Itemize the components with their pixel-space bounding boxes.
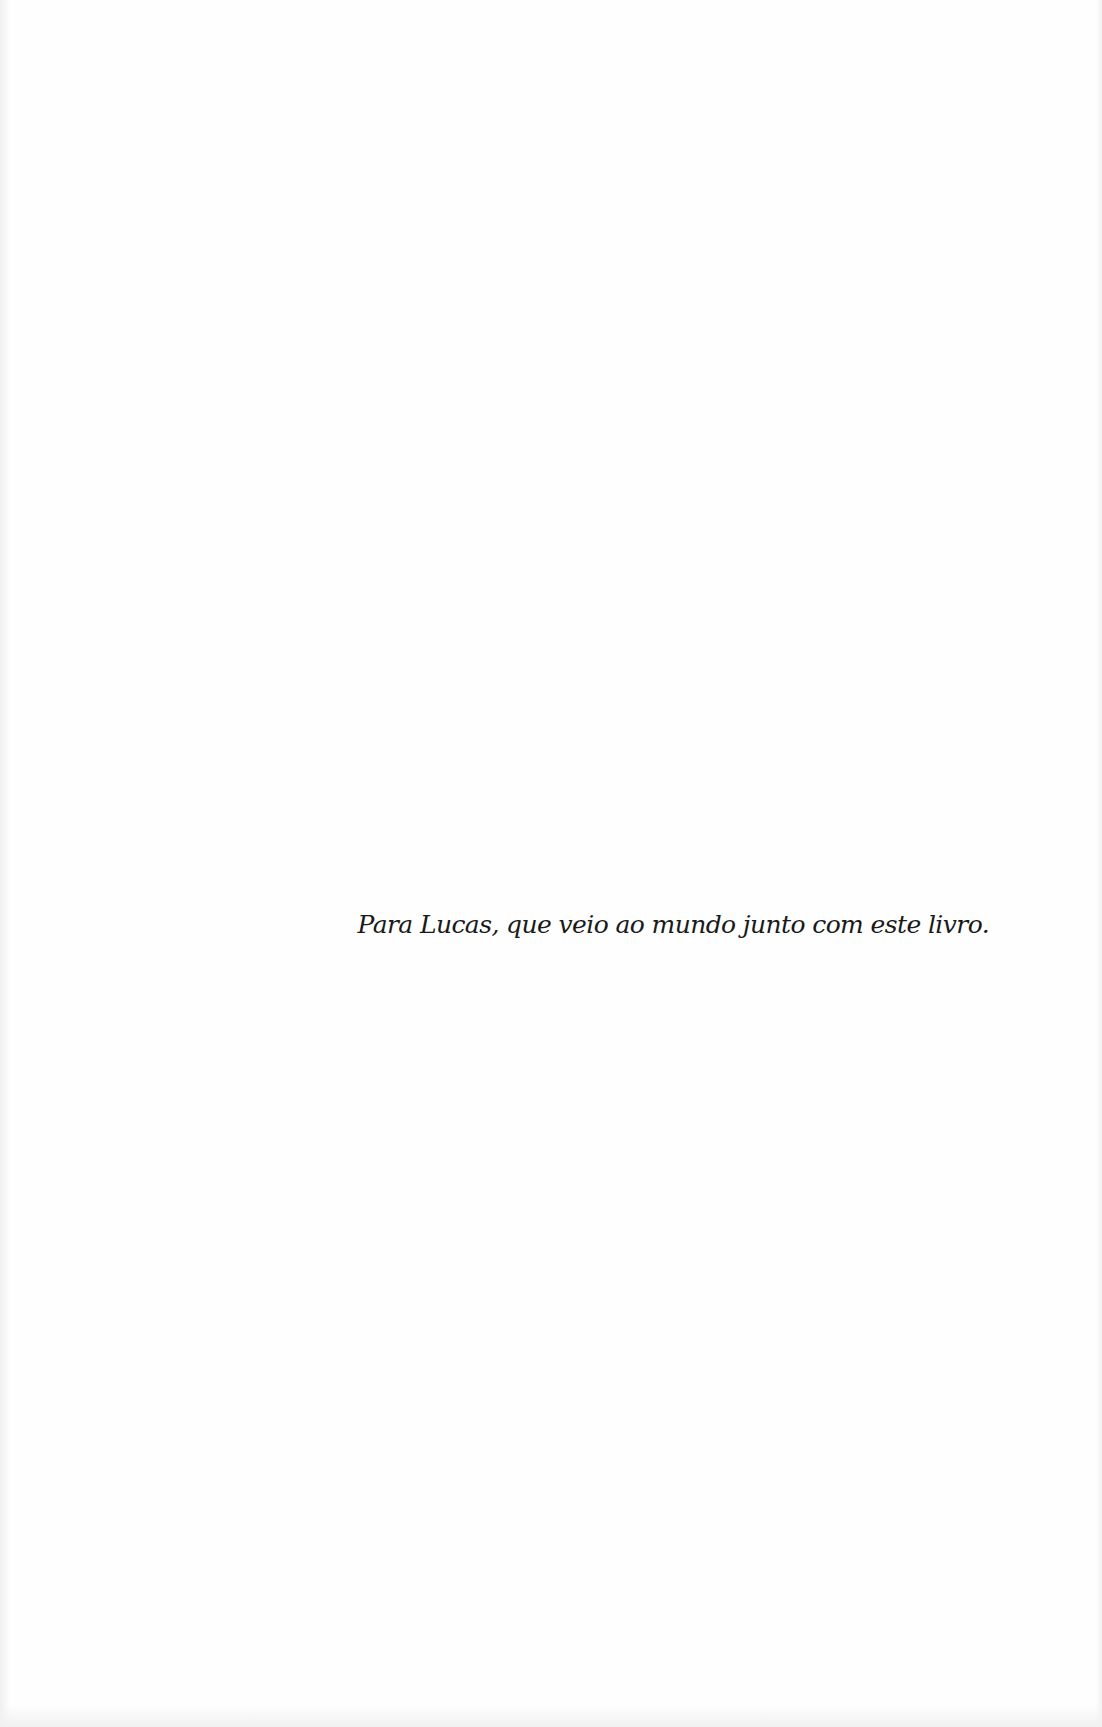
dedication-text: Para Lucas, que veio ao mundo junto com …	[358, 910, 989, 939]
page-edge-left	[0, 0, 10, 1727]
book-page: Para Lucas, que veio ao mundo junto com …	[0, 0, 1102, 1727]
page-edge-bottom	[0, 1705, 1102, 1727]
page-edge-right	[1096, 0, 1102, 1727]
